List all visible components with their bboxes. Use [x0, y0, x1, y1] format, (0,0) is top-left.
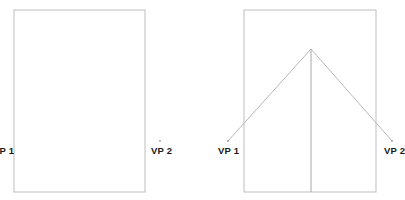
left-diagram-group	[0, 10, 161, 192]
right-vp1-label: VP 1	[218, 146, 239, 156]
left-rectangle	[14, 10, 145, 192]
right-vp2-dot	[391, 140, 393, 142]
left-vp1-label: VP 1	[0, 146, 14, 156]
left-vp2-label: VP 2	[151, 146, 172, 156]
left-vp2-dot	[159, 140, 161, 142]
right-vp2-label: VP 2	[384, 146, 405, 156]
perspective-diagram-canvas	[0, 0, 405, 200]
convergence-line-to-vp1	[228, 49, 311, 141]
convergence-line-to-vp2	[311, 49, 392, 141]
right-vp1-dot	[227, 140, 229, 142]
right-diagram-group	[227, 10, 393, 192]
